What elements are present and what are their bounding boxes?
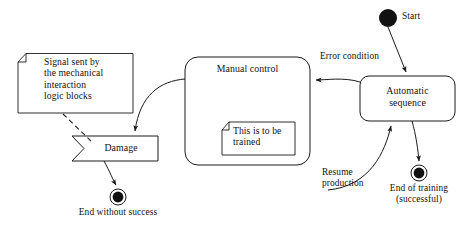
transition-automatic-to-end-of-training bbox=[412, 121, 419, 161]
transition-start-to-automatic bbox=[388, 27, 406, 72]
damage-title: Damage bbox=[84, 142, 158, 154]
manual-control-title: Manual control bbox=[185, 63, 310, 75]
end-of-training-shape bbox=[411, 165, 427, 181]
state-diagram-canvas: Signal sent by the mechanical interactio… bbox=[0, 0, 470, 230]
end-of-training-label: End of training (successful) bbox=[390, 183, 448, 205]
end-without-success-shape bbox=[110, 189, 126, 205]
training-note-text: This is to be trained bbox=[233, 125, 295, 148]
signal-note-text: Signal sent by the mechanical interactio… bbox=[44, 56, 136, 101]
error-condition-label: Error condition bbox=[320, 51, 379, 62]
transition-error-condition bbox=[316, 79, 360, 82]
resume-production-label: Resume production bbox=[322, 167, 364, 189]
transition-manual-to-damage bbox=[135, 79, 185, 131]
automatic-sequence-title: Automatic sequence bbox=[360, 85, 455, 108]
start-node-shape bbox=[379, 9, 397, 27]
transition-damage-to-end bbox=[104, 161, 116, 185]
end-without-success-label: End without success bbox=[79, 207, 157, 218]
start-node-label: Start bbox=[402, 11, 420, 22]
